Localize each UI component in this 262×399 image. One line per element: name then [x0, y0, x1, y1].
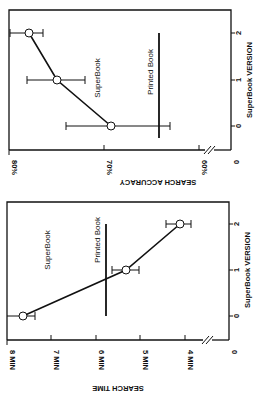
time-tick-6: 6 MIN [97, 350, 106, 370]
chart-canvas: SuperBook Printed Book 80% 70% 60% 0 SEA… [0, 0, 262, 399]
time-chart [7, 202, 233, 345]
time-tick-0: 0 [230, 350, 239, 354]
accuracy-point-v0 [107, 122, 115, 130]
time-point-v2 [176, 220, 184, 228]
accuracy-printed-error-bar [111, 122, 170, 130]
time-tick-7: 7 MIN [52, 350, 61, 370]
accuracy-chart [9, 10, 235, 155]
accuracy-tick-80: 80% [10, 160, 19, 175]
time-frame [7, 202, 229, 340]
accuracy-version-title: SuperBook VERSION [245, 42, 254, 118]
accuracy-tick-0: 0 [232, 160, 241, 164]
axis-break-icon [202, 336, 213, 344]
time-version-tick-0: 0 [232, 314, 241, 318]
time-point-v1 [122, 266, 130, 274]
accuracy-version-tick-2: 2 [234, 31, 243, 35]
time-point-v0 [19, 312, 27, 320]
time-version-title: SuperBook VERSION [243, 232, 252, 308]
accuracy-version-tick-1: 1 [234, 78, 243, 82]
time-axis-title: SEARCH TIME [92, 384, 144, 393]
accuracy-tick-70: 70% [105, 160, 114, 175]
time-tick-8: 8 MIN [8, 350, 17, 370]
accuracy-version-tick-0: 0 [234, 124, 243, 128]
accuracy-point-v1 [53, 76, 61, 84]
accuracy-error-bar-v0 [66, 122, 111, 130]
time-version-tick-1: 1 [232, 268, 241, 272]
accuracy-tick-60: 60% [200, 160, 209, 175]
accuracy-printed-label: Printed Book [146, 48, 155, 95]
time-superbook-label: SuperBook [43, 229, 52, 270]
time-labels: SuperBook Printed Book 8 MIN 7 MIN 6 MIN… [8, 216, 252, 393]
accuracy-axis-title: SEARCH ACCURACY [120, 178, 196, 187]
axis-break-icon [204, 146, 215, 154]
time-tick-5: 5 MIN [141, 350, 150, 370]
time-tick-4: 4 MIN [186, 350, 195, 370]
time-printed-label: Printed Book [93, 216, 102, 263]
time-version-tick-2: 2 [232, 222, 241, 226]
accuracy-labels: SuperBook Printed Book 80% 70% 60% 0 SEA… [10, 31, 254, 187]
accuracy-superbook-label: SuperBook [93, 57, 102, 98]
accuracy-point-v2 [25, 29, 33, 37]
